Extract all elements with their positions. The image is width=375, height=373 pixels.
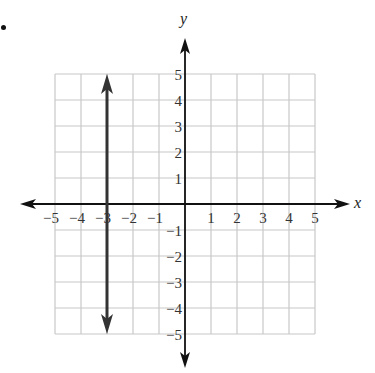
x-tick-label: −4 xyxy=(69,210,85,226)
y-tick-label: −2 xyxy=(166,249,182,265)
x-tick-label: −5 xyxy=(43,210,59,226)
y-tick-label: 1 xyxy=(175,171,183,187)
y-tick-label: −1 xyxy=(166,223,182,239)
y-tick-label: −5 xyxy=(166,327,182,343)
y-axis-label: y xyxy=(178,10,188,28)
x-tick-label: −3 xyxy=(95,210,111,226)
y-tick-label: 4 xyxy=(175,93,183,109)
coordinate-plane: −5−4−3−2−11234554321−1−2−3−4−5 x y xyxy=(0,0,375,373)
x-axis-label: x xyxy=(353,194,361,211)
x-tick-label: 4 xyxy=(285,210,293,226)
x-tick-label: 1 xyxy=(207,210,215,226)
y-tick-label: 2 xyxy=(175,145,183,161)
x-tick-label: 3 xyxy=(259,210,267,226)
x-tick-label: −1 xyxy=(147,210,163,226)
y-tick-label: −3 xyxy=(166,275,182,291)
axes xyxy=(20,38,350,368)
tick-labels: −5−4−3−2−11234554321−1−2−3−4−5 xyxy=(43,67,319,343)
x-tick-label: −2 xyxy=(121,210,137,226)
y-tick-label: −4 xyxy=(166,301,182,317)
y-tick-label: 3 xyxy=(175,119,183,135)
y-tick-label: 5 xyxy=(175,67,183,83)
x-tick-label: 2 xyxy=(233,210,241,226)
x-tick-label: 5 xyxy=(311,210,319,226)
